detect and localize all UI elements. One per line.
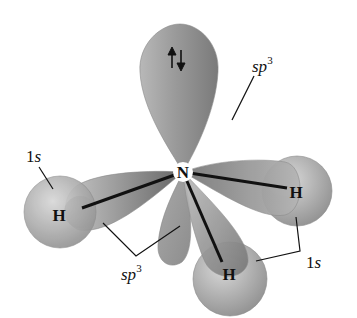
sp3-lobe-lone-pair (140, 24, 218, 172)
atom-hydrogen-bottom: H (222, 266, 235, 283)
ammonia-orbital-diagram (0, 0, 357, 318)
atom-hydrogen-left: H (52, 207, 65, 224)
atom-hydrogen-right: H (289, 184, 302, 201)
label-1s-left: 1s (26, 148, 41, 165)
label-1s-right: 1s (306, 254, 321, 271)
leader-top-sp3 (232, 76, 254, 120)
label-sp3-top: sp3 (252, 58, 273, 75)
label-sp3-bottom: sp3 (121, 266, 142, 283)
atom-nitrogen: N (177, 164, 189, 181)
